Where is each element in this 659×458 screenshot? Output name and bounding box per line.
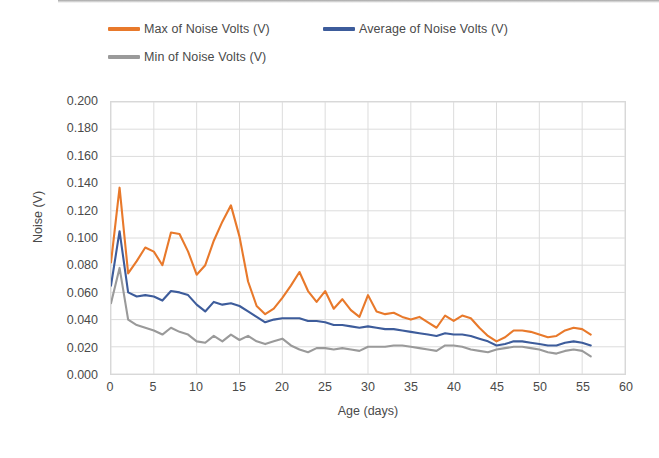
- noise-vs-age-line-chart: Max of Noise Volts (V) Average of Noise …: [0, 0, 659, 458]
- series-line-min: [111, 268, 591, 356]
- legend-label-max: Max of Noise Volts (V): [144, 22, 270, 36]
- y-tick-label: 0.000: [67, 368, 98, 382]
- y-tick-label: 0.040: [67, 313, 98, 327]
- y-tick-label: 0.100: [67, 231, 98, 245]
- legend-label-min: Min of Noise Volts (V): [144, 50, 266, 64]
- y-tick-label: 0.060: [67, 286, 98, 300]
- x-tick-label: 35: [404, 380, 418, 394]
- x-axis-title: Age (days): [110, 404, 626, 418]
- x-tick-label: 60: [619, 380, 633, 394]
- x-tick-label: 10: [189, 380, 203, 394]
- series-line-max: [111, 188, 591, 342]
- y-tick-label: 0.020: [67, 341, 98, 355]
- y-tick-label: 0.120: [67, 204, 98, 218]
- y-tick-label: 0.080: [67, 258, 98, 272]
- plot-area: [110, 101, 626, 375]
- legend-label-average: Average of Noise Volts (V): [359, 22, 508, 36]
- x-tick-label: 55: [576, 380, 590, 394]
- legend-item-average[interactable]: Average of Noise Volts (V): [323, 22, 508, 36]
- y-tick-label: 0.180: [67, 121, 98, 135]
- x-tick-label: 25: [318, 380, 332, 394]
- x-tick-label: 0: [107, 380, 114, 394]
- y-axis-title: Noise (V): [31, 157, 45, 277]
- x-axis-tick-labels: 051015202530354045505560: [110, 380, 626, 398]
- y-tick-label: 0.200: [67, 94, 98, 108]
- legend-swatch-average: [323, 27, 355, 31]
- x-tick-label: 50: [533, 380, 547, 394]
- y-tick-label: 0.160: [67, 149, 98, 163]
- y-axis-tick-labels: 0.0000.0200.0400.0600.0800.1000.1200.140…: [40, 101, 104, 375]
- x-tick-label: 40: [447, 380, 461, 394]
- x-tick-label: 5: [150, 380, 157, 394]
- chart-legend: Max of Noise Volts (V) Average of Noise …: [108, 22, 578, 78]
- legend-swatch-min: [108, 55, 140, 59]
- legend-item-max[interactable]: Max of Noise Volts (V): [108, 22, 270, 36]
- legend-item-min[interactable]: Min of Noise Volts (V): [108, 50, 266, 64]
- x-tick-label: 45: [490, 380, 504, 394]
- y-tick-label: 0.140: [67, 176, 98, 190]
- plot-series-lines: [111, 102, 625, 374]
- series-line-avg: [111, 231, 591, 345]
- x-tick-label: 30: [361, 380, 375, 394]
- x-tick-label: 15: [232, 380, 246, 394]
- legend-swatch-max: [108, 27, 140, 31]
- x-tick-label: 20: [275, 380, 289, 394]
